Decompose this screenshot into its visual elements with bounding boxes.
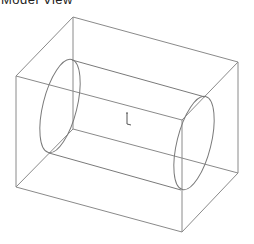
cylinder-silhouette-top bbox=[72, 60, 205, 97]
cylinder-silhouette-bottom bbox=[49, 153, 181, 190]
model-viewport[interactable] bbox=[0, 0, 254, 244]
box-back-face bbox=[73, 17, 238, 173]
cylinder-left-cap bbox=[32, 55, 88, 156]
box-edge bbox=[16, 17, 73, 76]
box-front-face bbox=[16, 76, 182, 232]
box-edge bbox=[16, 129, 73, 187]
box-edge bbox=[182, 62, 238, 120]
axis-triad-icon bbox=[126, 113, 131, 125]
box-edge bbox=[182, 173, 238, 232]
